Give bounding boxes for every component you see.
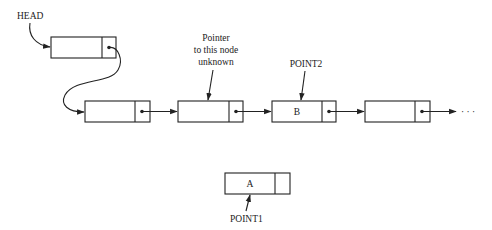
- node-2: [178, 101, 243, 122]
- unknown-pointer-label-line2: to this node: [194, 45, 238, 55]
- head-node: [51, 37, 116, 58]
- node-a: A: [225, 173, 290, 194]
- point1-label: POINT1: [230, 214, 263, 224]
- linked-list-diagram: HEAD Pointer to this node unknown B POIN…: [0, 0, 492, 230]
- unknown-pointer-label-line1: Pointer: [202, 33, 230, 43]
- unknown-pointer-label-line3: unknown: [198, 57, 234, 67]
- continuation-ellipsis: · · ·: [461, 107, 475, 117]
- point2-label: POINT2: [290, 59, 323, 69]
- node-4: [365, 101, 430, 122]
- node-a-value: A: [247, 179, 254, 189]
- point1-arrow: [246, 195, 250, 211]
- point2-arrow: [301, 71, 305, 100]
- node-1: [85, 101, 150, 122]
- head-arrow: [30, 23, 50, 47]
- node-b-value: B: [294, 107, 300, 117]
- head-label: HEAD: [17, 11, 44, 21]
- node-b: B: [272, 101, 336, 122]
- unknown-pointer-arrow: [208, 70, 213, 100]
